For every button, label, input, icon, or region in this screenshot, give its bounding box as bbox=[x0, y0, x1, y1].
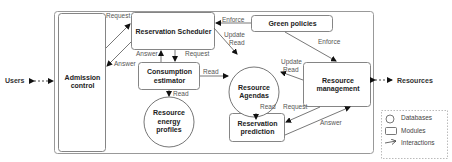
label-estimator-profiles-read: Read bbox=[173, 91, 189, 98]
reservation-scheduler-label: Reservation Scheduler bbox=[132, 14, 215, 50]
resource-energy-profiles-label: Resource energy profiles bbox=[150, 108, 188, 136]
label-scheduler-agendas-update: Update bbox=[224, 32, 245, 39]
label-management-agendas-update: Update bbox=[281, 59, 302, 66]
label-estimator-request: Request bbox=[185, 51, 209, 58]
label-management-prediction-request: Request bbox=[283, 104, 307, 111]
label-prediction-agendas-read: Read bbox=[260, 104, 276, 111]
label-management-agendas-read: Read bbox=[283, 67, 299, 74]
label-admission-answer: Answer bbox=[114, 61, 136, 68]
label-green-management-enforce: Enforce bbox=[318, 39, 340, 46]
legend-databases-label: Databases bbox=[401, 115, 432, 122]
resource-management-label: Resource management bbox=[318, 63, 358, 107]
label-green-scheduler-enforce: Enforce bbox=[222, 17, 244, 24]
label-prediction-management-answer: Answer bbox=[320, 120, 342, 127]
green-policies-label: Green policies bbox=[252, 16, 333, 32]
legend-interactions-label: Interactions bbox=[401, 140, 435, 147]
label-estimator-agendas-read: Read bbox=[203, 69, 219, 76]
resource-agendas-label: Resource Agendas bbox=[233, 82, 275, 102]
resources-label: Resources bbox=[397, 77, 433, 84]
admission-control-label: Admission control bbox=[59, 70, 106, 94]
consumption-estimator-label: Consumption estimator bbox=[139, 63, 200, 90]
label-scheduler-agendas-read: Read bbox=[229, 40, 245, 47]
legend-modules-label: Modules bbox=[401, 128, 426, 135]
label-admission-request: Request bbox=[106, 13, 130, 20]
reservation-prediction-label: Reservation prediction bbox=[230, 114, 285, 142]
label-estimator-answer: Answer bbox=[136, 51, 158, 58]
users-label: Users bbox=[5, 77, 24, 84]
